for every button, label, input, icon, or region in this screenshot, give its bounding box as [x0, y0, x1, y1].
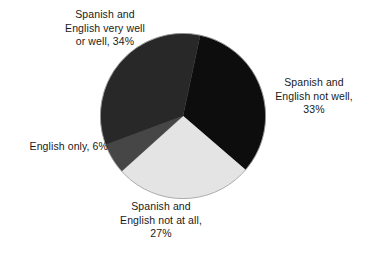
slice-label-very-well: Spanish and English very well or well, 3… — [30, 8, 180, 49]
slice-label-english-only: English only, 6% — [2, 140, 108, 154]
slice-label-not-well: Spanish and English not well, 33% — [262, 76, 366, 117]
pie-slices-group — [101, 34, 266, 199]
slice-label-not-at-all: Spanish and English not at all, 27% — [93, 200, 229, 241]
pie-svg — [100, 33, 266, 199]
pie-chart-graphic — [100, 33, 266, 199]
pie-chart-figure: Spanish and English very well or well, 3… — [0, 0, 368, 259]
